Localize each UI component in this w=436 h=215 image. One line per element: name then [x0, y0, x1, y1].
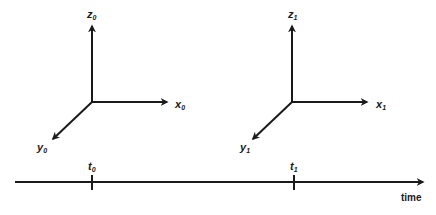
- timeline-tick-1-label: t1: [290, 160, 298, 173]
- frame-1-y-axis: [253, 102, 292, 139]
- frame-1: z1 x1 y1: [239, 8, 386, 154]
- frame-0-x-label: x0: [174, 98, 185, 111]
- timeline-axis-label: time: [401, 192, 422, 203]
- frame-0-y-label: y0: [36, 141, 47, 154]
- frame-0: z0 x0 y0: [36, 8, 185, 154]
- frame-1-z-label: z1: [287, 8, 298, 21]
- frame-1-x-label: x1: [375, 98, 386, 111]
- frame-0-y-axis: [53, 102, 92, 139]
- timeline: t0 t1 time: [15, 160, 423, 203]
- timeline-tick-0-label: t0: [88, 160, 96, 173]
- coordinate-frames-diagram: z0 x0 y0 z1 x1 y1 t0 t1 time: [0, 0, 436, 215]
- frame-1-y-label: y1: [239, 141, 250, 154]
- frame-0-z-label: z0: [86, 8, 97, 21]
